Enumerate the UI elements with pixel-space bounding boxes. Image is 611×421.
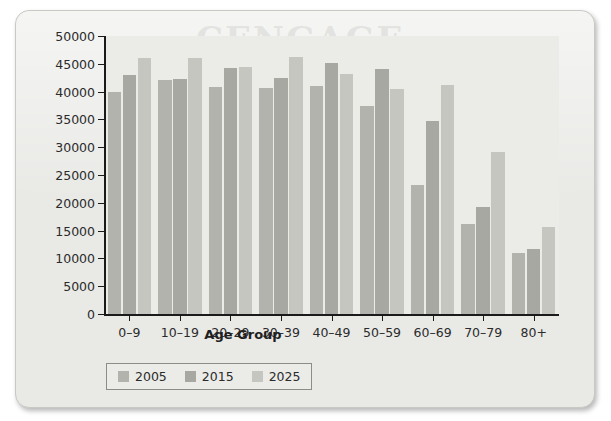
- x-axis-tick: [433, 316, 434, 321]
- y-axis-tick-label: 40000: [55, 84, 95, 99]
- legend-item[interactable]: 2015: [185, 369, 234, 384]
- legend-swatch: [252, 371, 263, 382]
- x-axis-tick: [382, 316, 383, 321]
- y-axis-tick: [98, 314, 104, 315]
- legend-label: 2025: [269, 369, 301, 384]
- x-axis-tick-label: 50–59: [363, 325, 401, 340]
- bar: [259, 88, 273, 314]
- x-axis-tick: [129, 316, 130, 321]
- y-axis-tick: [98, 231, 104, 232]
- y-axis-tick: [98, 36, 104, 37]
- y-axis-tick: [98, 203, 104, 204]
- y-axis-tick: [98, 258, 104, 259]
- bar: [138, 58, 152, 314]
- x-axis-tick-label: 60–69: [414, 325, 452, 340]
- y-axis-tick-label: 35000: [55, 112, 95, 127]
- y-axis-tick-label: 20000: [55, 195, 95, 210]
- legend-item[interactable]: 2005: [118, 369, 167, 384]
- bar: [476, 207, 490, 314]
- x-axis-tick-label: 10–19: [161, 325, 199, 340]
- legend-item[interactable]: 2025: [252, 369, 301, 384]
- x-axis-tick: [230, 316, 231, 321]
- bar: [360, 106, 374, 315]
- bar: [158, 80, 172, 314]
- y-axis-tick: [98, 147, 104, 148]
- bar: [224, 68, 238, 314]
- legend-swatch: [185, 371, 196, 382]
- y-axis-tick-label: 25000: [55, 168, 95, 183]
- bar: [209, 87, 223, 314]
- bar: [461, 224, 475, 314]
- bar: [325, 63, 339, 314]
- bar: [426, 121, 440, 314]
- y-axis-tick-label: 10000: [55, 251, 95, 266]
- x-axis-tick: [534, 316, 535, 321]
- y-axis-tick-label: 30000: [55, 140, 95, 155]
- chart-figure: CENGAGE 05000100001500020000250003000035…: [15, 10, 595, 408]
- bar: [542, 227, 556, 314]
- legend-label: 2005: [135, 369, 167, 384]
- bar: [274, 78, 288, 314]
- y-axis-tick: [98, 175, 104, 176]
- x-axis-tick-label: 0–9: [118, 325, 140, 340]
- bar: [512, 253, 526, 314]
- x-axis-tick-label: 80+: [521, 325, 547, 340]
- y-axis-tick: [98, 92, 104, 93]
- y-axis-tick-label: 5000: [63, 279, 95, 294]
- y-axis-tick-label: 0: [87, 307, 95, 322]
- y-axis-tick: [98, 286, 104, 287]
- y-axis-tick-label: 45000: [55, 56, 95, 71]
- bar: [375, 69, 389, 314]
- plot-area: 0500010000150002000025000300003500040000…: [104, 36, 559, 316]
- x-axis-tick-label: 70–79: [464, 325, 502, 340]
- bar: [289, 57, 303, 314]
- y-axis-line: [104, 36, 106, 316]
- x-axis-tick: [180, 316, 181, 321]
- bar: [390, 89, 404, 314]
- bar: [411, 185, 425, 314]
- bar: [173, 79, 187, 314]
- chart-legend: 200520152025: [106, 363, 312, 390]
- bar: [123, 75, 137, 314]
- bar: [239, 67, 253, 314]
- legend-swatch: [118, 371, 129, 382]
- y-axis-tick: [98, 119, 104, 120]
- x-axis-tick: [483, 316, 484, 321]
- x-axis-tick-label: 40–49: [312, 325, 350, 340]
- bar: [441, 85, 455, 314]
- bar: [108, 92, 122, 314]
- bar: [491, 152, 505, 314]
- y-axis-tick-label: 50000: [55, 29, 95, 44]
- y-axis-tick-label: 15000: [55, 223, 95, 238]
- y-axis-tick: [98, 64, 104, 65]
- bar: [527, 249, 541, 314]
- bar: [340, 74, 354, 314]
- x-axis-tick: [281, 316, 282, 321]
- bar: [310, 86, 324, 314]
- x-axis-title: Age Group: [204, 327, 281, 342]
- legend-label: 2015: [202, 369, 234, 384]
- bar: [188, 58, 202, 314]
- x-axis-tick: [332, 316, 333, 321]
